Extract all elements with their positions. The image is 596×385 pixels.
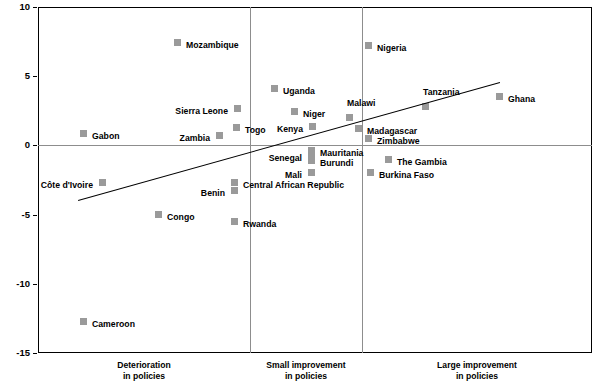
x-category-line1: Deterioration — [117, 360, 170, 370]
data-point-marker — [346, 114, 353, 121]
data-point-label: Nigeria — [377, 44, 406, 53]
data-point-label: Côte d'Ivoire — [41, 181, 93, 190]
y-tick-label: 10 — [4, 2, 30, 12]
data-point-label: Gabon — [92, 132, 120, 141]
y-tick-mark — [33, 145, 37, 146]
data-point-label: Zambia — [180, 134, 210, 143]
data-point-label: Burkina Faso — [379, 171, 434, 180]
data-point-marker — [99, 179, 106, 186]
data-point-marker — [496, 93, 503, 100]
y-tick-label: -5 — [4, 210, 30, 220]
data-point-label: Malawi — [347, 99, 376, 108]
data-point-label: Congo — [167, 213, 195, 222]
data-point-label: Burundi — [320, 159, 353, 168]
x-category-label-2: Small improvementin policies — [236, 360, 376, 382]
data-point-marker — [174, 39, 181, 46]
x-category-line2: in policies — [285, 371, 327, 381]
data-point-marker — [233, 124, 240, 131]
data-point-marker — [155, 211, 162, 218]
data-point-label: Niger — [303, 110, 325, 119]
data-point-marker — [291, 108, 298, 115]
x-category-label-1: Deteriorationin policies — [74, 360, 214, 382]
data-point-label: Rwanda — [243, 220, 276, 229]
data-point-label: Mali — [285, 171, 302, 180]
x-category-line2: in policies — [123, 371, 165, 381]
y-tick-label: -10 — [4, 279, 30, 289]
data-point-label: Cameroon — [92, 320, 135, 329]
y-tick-mark — [33, 7, 37, 8]
y-tick-mark — [33, 215, 37, 216]
data-point-marker — [355, 125, 362, 132]
data-point-marker — [308, 152, 315, 159]
category-divider-2 — [362, 7, 363, 353]
data-point-marker — [80, 130, 87, 137]
y-tick-mark — [33, 284, 37, 285]
data-point-label: Central African Republic — [243, 181, 344, 190]
data-point-marker — [231, 218, 238, 225]
data-point-marker — [231, 179, 238, 186]
data-point-label: Kenya — [277, 125, 303, 134]
y-tick-label: -15 — [4, 348, 30, 358]
data-point-marker — [80, 318, 87, 325]
data-point-marker — [271, 85, 278, 92]
zero-reference-line — [38, 145, 592, 146]
data-point-marker — [216, 132, 223, 139]
data-point-label: Mauritania — [320, 149, 363, 158]
scatter-chart: 1050-5-10-15 Deteriorationin policiesSma… — [0, 0, 596, 385]
data-point-label: The Gambia — [397, 158, 447, 167]
data-point-label: Benin — [201, 189, 225, 198]
data-point-label: Mozambique — [186, 41, 239, 50]
x-category-line1: Small improvement — [266, 360, 345, 370]
data-point-marker — [385, 156, 392, 163]
data-point-label: Ghana — [508, 95, 535, 104]
data-point-label: Togo — [245, 126, 266, 135]
x-category-label-3: Large improvementin policies — [407, 360, 547, 382]
data-point-label: Sierra Leone — [175, 107, 228, 116]
data-point-label: Madagascar — [367, 127, 417, 136]
data-point-label: Zimbabwe — [377, 137, 419, 146]
data-point-marker — [365, 42, 372, 49]
x-category-line1: Large improvement — [437, 360, 517, 370]
y-tick-mark — [33, 76, 37, 77]
data-point-marker — [365, 135, 372, 142]
data-point-marker — [231, 187, 238, 194]
y-tick-label: 0 — [4, 140, 30, 150]
data-point-marker — [367, 169, 374, 176]
x-category-line2: in policies — [456, 371, 498, 381]
data-point-marker — [309, 123, 316, 130]
data-point-marker — [308, 169, 315, 176]
data-point-label: Senegal — [269, 154, 302, 163]
data-point-label: Uganda — [283, 87, 315, 96]
y-tick-mark — [33, 353, 37, 354]
data-point-marker — [234, 105, 241, 112]
y-tick-label: 5 — [4, 71, 30, 81]
